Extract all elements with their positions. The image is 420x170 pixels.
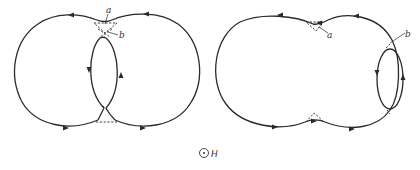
left-panel: a b: [15, 5, 200, 131]
left-arrow-top-right: [143, 12, 149, 17]
field-dot-icon: [203, 152, 205, 154]
field-label: H: [211, 149, 218, 159]
right-label-b: b: [405, 29, 411, 39]
left-top-junction: [97, 20, 112, 22]
right-label-a: a: [327, 30, 332, 40]
left-arrow-lens-up: [119, 72, 124, 78]
left-top-dashed-junction: [94, 23, 117, 33]
left-label-b-leader: [108, 32, 118, 35]
right-label-b-leader: [390, 33, 405, 43]
magnetic-field-indicator: H: [200, 149, 219, 159]
left-arrow-top-left: [68, 13, 74, 18]
right-panel: a b: [216, 13, 411, 132]
right-outer-orbit: [216, 16, 399, 128]
orbit-diagram: a b a b H: [0, 0, 420, 170]
left-bottom-cross-b: [106, 108, 115, 120]
right-small-orbit: [377, 49, 403, 109]
left-bottom-cross-a: [98, 108, 104, 120]
left-label-a: a: [106, 5, 111, 15]
right-arrow-small-down: [375, 70, 380, 76]
left-lens-right: [106, 38, 117, 108]
left-lens-top: [100, 37, 106, 38]
right-arrow-top-right: [353, 14, 359, 19]
left-label-b: b: [119, 30, 125, 40]
left-lens-left: [91, 38, 104, 108]
left-outer-left-arc: [15, 15, 98, 126]
left-outer-right-arc: [112, 14, 200, 126]
right-arrow-small-up: [401, 74, 406, 80]
right-b-dashed-top: [386, 44, 390, 48]
left-label-a-leader: [105, 14, 108, 24]
right-arrow-bottom-left: [272, 125, 278, 130]
